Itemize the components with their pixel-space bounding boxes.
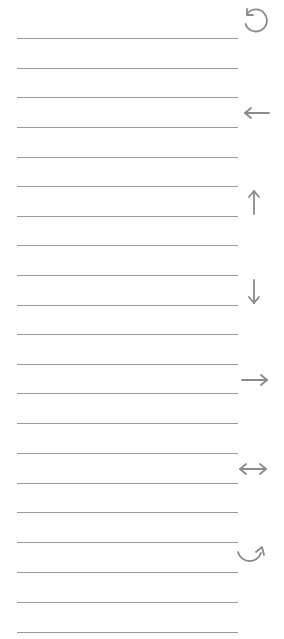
rule-line (17, 127, 238, 128)
rule-line (17, 602, 238, 603)
arrow-up-icon[interactable] (237, 188, 271, 218)
rule-line (17, 542, 238, 543)
rule-line (17, 512, 238, 513)
rule-line (17, 393, 238, 394)
rule-line (17, 97, 238, 98)
rule-line (17, 453, 238, 454)
rule-line (17, 157, 238, 158)
rule-line (17, 216, 238, 217)
rule-line (17, 572, 238, 573)
rule-line (17, 483, 238, 484)
rule-line (17, 334, 238, 335)
rule-line (17, 305, 238, 306)
rule-line (17, 186, 238, 187)
arrow-down-icon[interactable] (237, 276, 271, 306)
rule-line (17, 245, 238, 246)
rule-line (17, 632, 238, 633)
arrow-left-right-icon[interactable] (236, 454, 270, 484)
arrow-left-icon[interactable] (241, 98, 275, 128)
rule-line (17, 364, 238, 365)
rule-line (17, 38, 238, 39)
rotate-clockwise-curve-icon[interactable] (235, 541, 269, 571)
rule-line (17, 68, 238, 69)
rule-line (17, 275, 238, 276)
rule-line (17, 423, 238, 424)
arrow-right-icon[interactable] (238, 365, 272, 395)
rotate-counterclockwise-icon[interactable] (238, 5, 272, 35)
